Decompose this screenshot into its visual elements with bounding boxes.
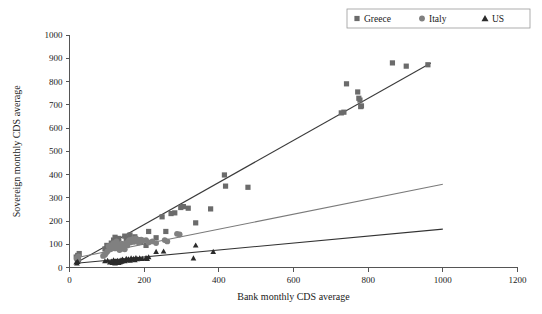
data-point-us — [210, 249, 216, 254]
y-tick-label: 900 — [49, 53, 63, 63]
data-point-us — [193, 243, 199, 248]
scatter-plot: 0200400600800100012000100200300400500600… — [0, 0, 542, 314]
y-tick-label: 700 — [49, 100, 63, 110]
data-point-greece — [245, 185, 250, 190]
data-point-greece — [146, 229, 151, 234]
y-tick-label: 0 — [58, 263, 63, 273]
legend-label: Greece — [364, 14, 391, 24]
data-point-greece — [193, 220, 198, 225]
series-greece — [74, 60, 431, 263]
data-point-greece — [390, 60, 395, 65]
y-tick-label: 400 — [49, 170, 63, 180]
legend-marker-square-icon — [354, 16, 359, 21]
y-tick-label: 600 — [49, 123, 63, 133]
data-point-greece — [223, 184, 228, 189]
data-point-greece — [341, 110, 346, 115]
data-point-greece — [208, 206, 213, 211]
data-point-greece — [425, 62, 430, 67]
legend-marker-circle-icon — [419, 16, 425, 22]
legend[interactable]: GreeceItalyUS — [347, 9, 530, 28]
data-point-us — [191, 255, 197, 260]
x-tick-label: 400 — [212, 275, 226, 285]
data-point-greece — [222, 172, 227, 177]
axis-labels: 0200400600800100012000100200300400500600… — [11, 30, 527, 302]
y-tick-label: 1000 — [45, 30, 64, 40]
data-point-greece — [163, 229, 168, 234]
data-point-greece — [159, 214, 164, 219]
legend-label: US — [492, 14, 504, 24]
data-point-greece — [359, 103, 364, 108]
data-point-greece — [357, 98, 362, 103]
x-tick-label: 1000 — [434, 275, 453, 285]
chart-figure: 0200400600800100012000100200300400500600… — [0, 0, 542, 314]
data-point-greece — [355, 89, 360, 94]
x-tick-label: 1200 — [509, 275, 528, 285]
x-tick-label: 200 — [137, 275, 151, 285]
data-point-greece — [181, 204, 186, 209]
data-point-italy — [76, 253, 82, 259]
x-tick-label: 0 — [67, 275, 72, 285]
data-point-greece — [172, 210, 177, 215]
data-point-italy — [164, 239, 170, 245]
x-tick-label: 800 — [361, 275, 375, 285]
y-tick-label: 200 — [49, 216, 63, 226]
data-point-italy — [177, 232, 183, 238]
data-point-greece — [186, 206, 191, 211]
y-axis-title: Sovereign monthly CDS average — [11, 85, 22, 217]
data-point-us — [153, 249, 159, 254]
data-point-greece — [404, 64, 409, 69]
legend-label: Italy — [429, 14, 447, 24]
data-point-greece — [344, 81, 349, 86]
y-tick-label: 800 — [49, 77, 63, 87]
data-point-italy — [153, 240, 159, 246]
x-tick-label: 600 — [287, 275, 301, 285]
y-tick-label: 500 — [49, 146, 63, 156]
x-axis-title: Bank monthly CDS average — [237, 291, 350, 302]
data-point-us — [161, 248, 167, 253]
y-tick-label: 100 — [49, 239, 63, 249]
y-tick-label: 300 — [49, 193, 63, 203]
